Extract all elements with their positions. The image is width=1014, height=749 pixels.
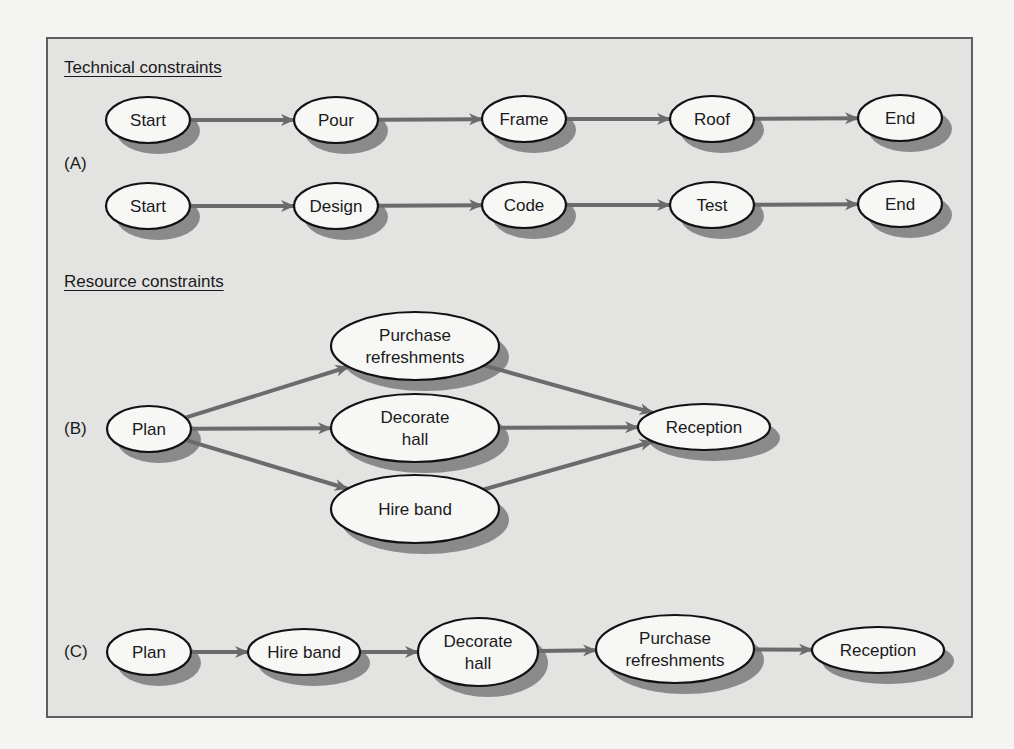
node-c_decorate: Decoratehall (418, 618, 538, 686)
arrow-a1_pour-to-a1_frame (378, 119, 482, 120)
node-a2_code: Code (482, 182, 566, 228)
node-label: Purchase (379, 326, 451, 345)
node-label: Hire band (267, 643, 341, 662)
node-label: Purchase (639, 629, 711, 648)
node-ellipse (331, 312, 499, 380)
node-label: Plan (132, 420, 166, 439)
node-label: Decorate (381, 408, 450, 427)
arrow-b_hireband-to-b_reception (484, 442, 653, 490)
node-label: Plan (132, 643, 166, 662)
node-a1_frame: Frame (482, 96, 566, 142)
node-label: refreshments (625, 651, 724, 670)
node-label: hall (465, 654, 491, 673)
node-label: Roof (694, 110, 730, 129)
node-a1_pour: Pour (294, 97, 378, 143)
node-label: Start (130, 197, 166, 216)
arrow-b_plan-to-b_decorate (191, 428, 331, 429)
arrow-a2_design-to-a2_code (378, 205, 482, 206)
node-label: Start (130, 111, 166, 130)
node-c_reception: Reception (812, 627, 944, 673)
precedence-diagram: StartPourFrameRoofEndStartDesignCodeTest… (0, 0, 1014, 749)
node-b_hireband: Hire band (331, 475, 499, 543)
arrow-a1_roof-to-a1_end (754, 118, 858, 119)
node-ellipse (418, 618, 538, 686)
node-a1_end: End (858, 95, 942, 141)
node-b_plan: Plan (107, 406, 191, 452)
node-label: Reception (840, 641, 917, 660)
arrow-a2_test-to-a2_end (754, 204, 858, 205)
arrow-b_purchase-to-b_reception (484, 365, 653, 412)
node-a2_design: Design (294, 183, 378, 229)
node-label: refreshments (365, 348, 464, 367)
node-a2_start: Start (106, 183, 190, 229)
node-a1_roof: Roof (670, 96, 754, 142)
node-a1_start: Start (106, 97, 190, 143)
node-c_plan: Plan (107, 629, 191, 675)
node-c_purchase: Purchaserefreshments (596, 615, 754, 683)
node-b_reception: Reception (638, 404, 770, 450)
node-label: End (885, 109, 915, 128)
node-b_purchase: Purchaserefreshments (331, 312, 499, 380)
node-a2_test: Test (670, 182, 754, 228)
figure-canvas: Technical constraints (A) Resource const… (0, 0, 1014, 749)
node-b_decorate: Decoratehall (331, 394, 499, 462)
node-label: Hire band (378, 500, 452, 519)
arrow-b_plan-to-b_purchase (185, 367, 348, 418)
node-label: Frame (499, 110, 548, 129)
node-label: Test (696, 196, 727, 215)
node-label: Pour (318, 111, 354, 130)
node-label: Code (504, 196, 545, 215)
node-a2_end: End (858, 181, 942, 227)
node-label: hall (402, 430, 428, 449)
node-ellipse (596, 615, 754, 683)
diagram-nodes: StartPourFrameRoofEndStartDesignCodeTest… (106, 95, 944, 686)
node-c_hireband: Hire band (248, 629, 360, 675)
node-label: Reception (666, 418, 743, 437)
node-label: End (885, 195, 915, 214)
node-label: Design (310, 197, 363, 216)
arrow-c_decorate-to-c_purchase (538, 650, 596, 651)
arrow-b_plan-to-b_hireband (186, 440, 348, 489)
node-ellipse (331, 394, 499, 462)
node-label: Decorate (444, 632, 513, 651)
